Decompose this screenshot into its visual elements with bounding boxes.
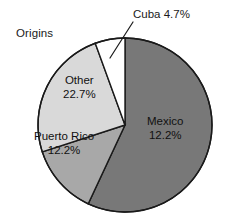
slice-label-other-percent: 22.7%: [63, 88, 96, 102]
slice-label-puerto-rico: Puerto Rico 12.2%: [34, 130, 94, 157]
slice-label-other-name: Other: [65, 74, 94, 86]
slice-label-mexico: Mexico 12.2%: [147, 115, 183, 142]
slice-label-other: Other 22.7%: [63, 74, 96, 101]
slice-label-cuba: Cuba 4.7%: [133, 8, 190, 20]
slice-label-puerto-rico-name: Puerto Rico: [34, 130, 94, 142]
pie-chart-figure: Origins Cuba 4.7% Mexico 12.2% Other 22.…: [0, 0, 230, 222]
slice-label-mexico-percent: 12.2%: [147, 129, 183, 143]
slice-label-puerto-rico-percent: 12.2%: [34, 144, 94, 158]
slice-label-mexico-name: Mexico: [147, 115, 183, 127]
chart-title: Origins: [16, 27, 53, 39]
